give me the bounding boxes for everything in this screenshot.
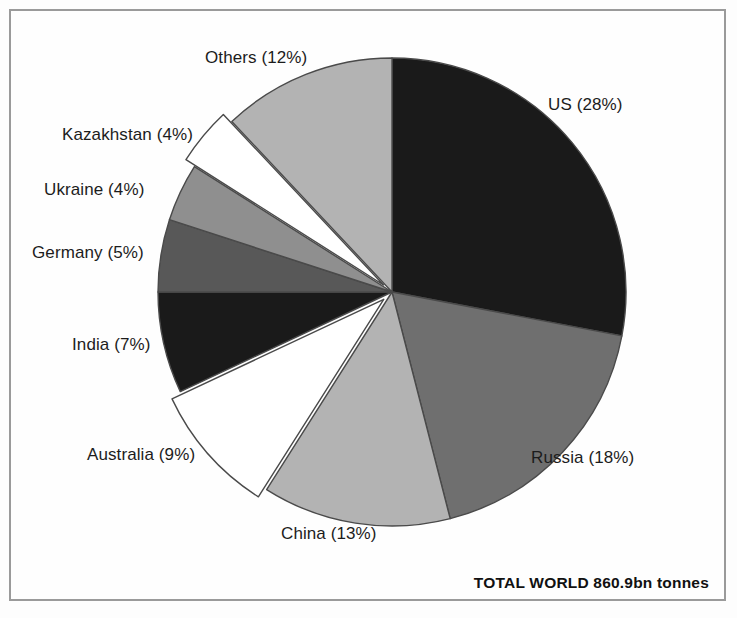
slice-label-russia: Russia (18%) <box>531 448 634 468</box>
slice-label-us: US (28%) <box>548 95 623 115</box>
slice-label-others: Others (12%) <box>205 48 307 68</box>
slice-label-china: China (13%) <box>281 524 377 544</box>
slice-label-india: India (7%) <box>72 335 150 355</box>
pie-chart-figure: US (28%) Russia (18%) China (13%) Austra… <box>0 0 737 618</box>
slice-label-kazakhstan: Kazakhstan (4%) <box>62 125 193 145</box>
total-world-note: TOTAL WORLD 860.9bn tonnes <box>474 574 709 592</box>
slice-label-ukraine: Ukraine (4%) <box>44 180 144 200</box>
slice-label-germany: Germany (5%) <box>32 243 144 263</box>
slice-label-australia: Australia (9%) <box>87 445 195 465</box>
